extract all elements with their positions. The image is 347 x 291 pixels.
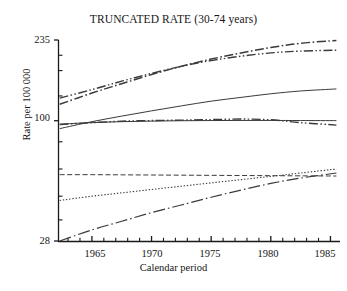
data-line-series-1 [60,40,337,104]
axis-lines [58,40,340,242]
x-axis-ticks [68,236,330,241]
data-series-layer [60,40,337,241]
data-line-series-7 [60,169,337,200]
data-line-series-8 [60,173,337,241]
chart-figure: TRUNCATED RATE (30-74 years) Rate per 10… [0,0,347,291]
data-line-series-6 [60,175,337,176]
plot-area [0,0,347,291]
